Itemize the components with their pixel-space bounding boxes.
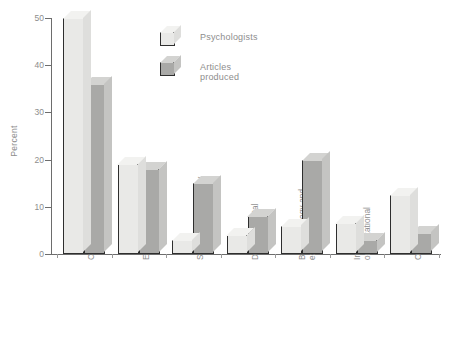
bar (118, 164, 139, 254)
bar (227, 235, 248, 254)
legend-swatch-icon (160, 32, 175, 46)
legend-label: Psychologists (200, 32, 258, 42)
bar (63, 18, 84, 254)
bar (281, 226, 302, 254)
bar (336, 223, 357, 254)
legend-swatch-icon (160, 62, 175, 76)
legend-label: Articles produced (200, 62, 239, 82)
bar (172, 240, 193, 254)
bar-chart: 01020304050 Percent Clinical/counselingE… (0, 0, 457, 349)
bar (390, 195, 411, 254)
bars-layer (0, 0, 457, 349)
